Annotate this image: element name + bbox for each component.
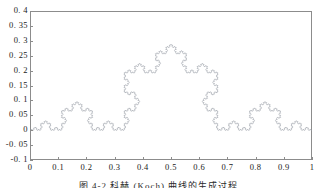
- y-axis-tick: [30, 115, 33, 116]
- y-axis-tick-label: 0. 1: [14, 95, 28, 104]
- x-axis-tick: [256, 157, 257, 160]
- y-axis-tick-label: 0. 25: [9, 51, 28, 60]
- x-axis-tick-label: 0.4: [128, 163, 158, 172]
- x-axis-tick: [86, 157, 87, 160]
- x-axis-tick-label: 0.7: [212, 163, 242, 172]
- y-axis-tick: [30, 86, 33, 87]
- x-axis-tick-label: 0.5: [156, 163, 186, 172]
- x-axis-tick: [284, 157, 285, 160]
- y-axis-tick: [30, 71, 33, 72]
- x-axis-tick: [58, 157, 59, 160]
- y-axis-tick-label: 0. 3: [14, 36, 28, 45]
- y-axis-tick-label: 0. 2: [14, 66, 28, 75]
- y-axis-tick-label: 0. 35: [9, 21, 28, 30]
- x-axis-tick: [199, 157, 200, 160]
- y-axis-tick: [30, 56, 33, 57]
- x-axis-tick-label: 0.6: [184, 163, 214, 172]
- x-axis-tick-label: 0: [15, 163, 45, 172]
- x-axis-tick: [30, 157, 31, 160]
- y-axis-tick: [30, 11, 33, 12]
- figure-caption: 图 4-2 科赫 (Koch) 曲线的生成过程: [0, 179, 317, 188]
- koch-curve-line: [30, 44, 312, 130]
- y-axis-tick-label: 0. 05: [9, 110, 28, 119]
- y-axis-tick: [30, 41, 33, 42]
- x-axis-tick: [312, 157, 313, 160]
- y-axis-tick-label: -0. 05: [6, 140, 28, 149]
- y-axis-tick: [30, 145, 33, 146]
- x-axis-tick: [227, 157, 228, 160]
- y-axis-tick-label: 0: [23, 125, 28, 134]
- y-axis-tick: [30, 100, 33, 101]
- y-axis-tick-label: 0. 15: [9, 81, 28, 90]
- x-axis-tick-label: 0.1: [43, 163, 73, 172]
- x-axis-tick: [143, 157, 144, 160]
- x-axis-tick-label: 1: [297, 163, 317, 172]
- koch-curve-plot: [30, 11, 312, 160]
- x-axis-tick-label: 0.8: [241, 163, 271, 172]
- x-axis-tick: [171, 157, 172, 160]
- x-axis-tick-label: 0.3: [100, 163, 130, 172]
- y-axis-tick-label: 0. 4: [14, 6, 28, 15]
- figure-container: -0. 1-0. 0500. 050. 10. 150. 20. 250. 30…: [0, 0, 317, 188]
- y-axis-tick: [30, 160, 33, 161]
- y-axis-tick: [30, 26, 33, 27]
- x-axis-tick-label: 0.2: [71, 163, 101, 172]
- y-axis-tick: [30, 130, 33, 131]
- x-axis-tick-label: 0.9: [269, 163, 299, 172]
- x-axis-tick: [115, 157, 116, 160]
